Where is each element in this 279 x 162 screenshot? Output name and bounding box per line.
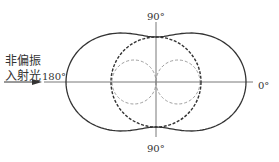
angle-label-90-top: 90° bbox=[147, 11, 165, 22]
angle-label-90-bottom: 90° bbox=[147, 143, 165, 154]
angle-label-0: 0° bbox=[258, 80, 269, 91]
incident-label-line1: 非偏振 bbox=[5, 53, 41, 68]
angle-label-180: 180° bbox=[42, 71, 66, 82]
polar-diagram: 非偏振 入射光 180° 0° 90° 90° bbox=[0, 0, 279, 162]
incident-label-line2: 入射光 bbox=[5, 68, 41, 83]
